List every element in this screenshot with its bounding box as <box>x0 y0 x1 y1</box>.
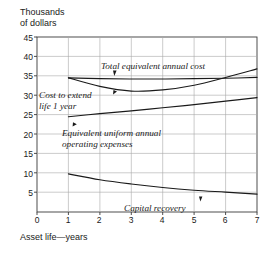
curve-label-opex-line1: Equivalent uniform annual <box>62 128 161 138</box>
curve-label-capital-recovery: Capital recovery <box>124 203 186 214</box>
curve-label-cost-to-extend-line1: Cost to extend <box>39 90 92 100</box>
curve-label-cost-to-extend-life: Cost to extendlife 1 year <box>39 90 92 111</box>
curve-label-opex-line2: operating expenses <box>62 139 133 149</box>
chart-figure: Thousandsof dollars Asset life—years 45 … <box>0 0 275 259</box>
curve-label-cost-to-extend-line2: life 1 year <box>39 101 76 111</box>
curve-label-operating-expenses: Equivalent uniform annualoperating expen… <box>62 128 161 149</box>
curve-label-total-equivalent-annual-cost: Total equivalent annual cost <box>101 61 205 72</box>
